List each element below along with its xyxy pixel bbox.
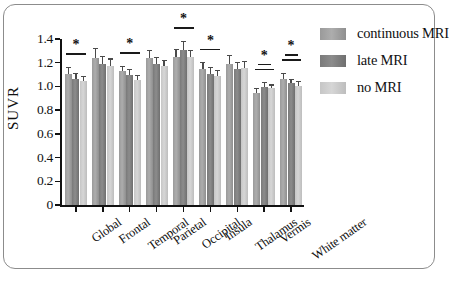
- error-bar-cap: [174, 49, 179, 50]
- significance-line: [255, 69, 274, 71]
- bar[interactable]: [161, 66, 168, 206]
- legend-label: late MRI: [357, 52, 407, 69]
- error-bar: [229, 56, 230, 64]
- significance-line: [200, 49, 220, 51]
- plot-area: 00.20.40.60.81.01.21.4 ****** GlobalFron…: [60, 39, 302, 207]
- legend-item[interactable]: continuous MRI: [320, 23, 449, 44]
- error-bar: [137, 76, 138, 80]
- significance-star: *: [72, 38, 79, 52]
- y-tick-label: 1.4: [37, 32, 53, 46]
- x-tick-mark: [102, 207, 103, 212]
- x-tick-mark: [183, 207, 184, 212]
- bar-group: [92, 39, 114, 205]
- error-bar: [264, 83, 265, 87]
- y-tick-mark: [55, 181, 60, 182]
- bar[interactable]: [72, 79, 79, 206]
- bar-group: [199, 39, 221, 205]
- bar[interactable]: [261, 87, 268, 206]
- bar[interactable]: [173, 57, 180, 205]
- significance-line: [285, 54, 298, 56]
- y-tick-label: 0.4: [37, 151, 53, 165]
- y-axis-title: SUVR: [5, 86, 22, 130]
- y-tick-label: 1.0: [37, 80, 53, 94]
- y-tick-mark: [55, 86, 60, 87]
- bar[interactable]: [207, 74, 214, 206]
- bar[interactable]: [234, 69, 241, 205]
- bar[interactable]: [180, 50, 187, 205]
- y-tick-mark: [55, 133, 60, 134]
- error-bar-cap: [242, 61, 247, 62]
- legend-item[interactable]: no MRI: [320, 77, 449, 98]
- error-bar: [129, 70, 130, 75]
- significance-line: [120, 52, 140, 54]
- y-tick-mark: [55, 109, 60, 110]
- significance-star: *: [180, 12, 187, 26]
- error-bar: [110, 60, 111, 66]
- bar[interactable]: [65, 74, 72, 206]
- bar[interactable]: [280, 79, 287, 206]
- error-bar-cap: [181, 41, 186, 42]
- error-bar-cap: [81, 76, 86, 77]
- error-bar: [175, 50, 176, 57]
- bar[interactable]: [99, 64, 106, 205]
- error-bar: [102, 57, 103, 64]
- y-tick-mark: [55, 157, 60, 158]
- error-bar: [156, 58, 157, 64]
- bar-group: [226, 39, 248, 205]
- bar[interactable]: [153, 64, 160, 205]
- bar[interactable]: [199, 69, 206, 205]
- bar[interactable]: [126, 75, 133, 205]
- bar[interactable]: [226, 64, 233, 205]
- error-bar-cap: [188, 50, 193, 51]
- bar[interactable]: [214, 76, 221, 205]
- legend-item[interactable]: late MRI: [320, 50, 449, 71]
- error-bar: [217, 71, 218, 76]
- bar-group: [65, 39, 87, 205]
- x-tick-mark: [237, 207, 238, 212]
- bar[interactable]: [119, 71, 126, 205]
- error-bar-cap: [135, 75, 140, 76]
- legend-swatch: [320, 82, 346, 94]
- y-tick-mark: [55, 204, 60, 205]
- bar[interactable]: [187, 57, 194, 205]
- significance-star: *: [207, 34, 214, 48]
- bar[interactable]: [134, 80, 141, 206]
- y-tick-label: 0: [47, 198, 53, 212]
- bar[interactable]: [92, 58, 99, 205]
- error-bar-cap: [147, 50, 152, 51]
- significance-line: [282, 59, 301, 61]
- bar[interactable]: [107, 66, 114, 206]
- significance-line: [174, 27, 194, 29]
- significance-line: [258, 64, 271, 66]
- y-tick-mark: [55, 62, 60, 63]
- error-bar: [256, 89, 257, 93]
- error-bar: [163, 61, 164, 66]
- error-bar-cap: [120, 66, 125, 67]
- bar[interactable]: [288, 83, 295, 205]
- y-tick-label: 0.2: [37, 175, 53, 189]
- legend-swatch: [320, 55, 346, 67]
- y-tick-label: 1.2: [37, 56, 53, 70]
- error-bar-cap: [73, 73, 78, 74]
- error-bar: [95, 49, 96, 58]
- bar[interactable]: [268, 88, 275, 205]
- error-bar-cap: [227, 55, 232, 56]
- error-bar: [210, 68, 211, 74]
- x-tick-mark: [210, 207, 211, 212]
- error-bar-cap: [254, 88, 259, 89]
- error-bar: [237, 63, 238, 69]
- bar-group: [280, 39, 302, 205]
- bar[interactable]: [146, 58, 153, 205]
- bar[interactable]: [241, 68, 248, 206]
- bar[interactable]: [295, 86, 302, 206]
- error-bar: [83, 77, 84, 81]
- figure-panel: SUVR 00.20.40.60.81.01.21.4 ****** Globa…: [3, 4, 435, 269]
- bar[interactable]: [253, 93, 260, 206]
- error-bar: [244, 62, 245, 68]
- significance-star: *: [126, 37, 133, 51]
- bar[interactable]: [80, 81, 87, 206]
- error-bar-cap: [281, 73, 286, 74]
- error-bar: [290, 80, 291, 84]
- x-tick-label: Global: [89, 215, 124, 246]
- error-bar-cap: [127, 69, 132, 70]
